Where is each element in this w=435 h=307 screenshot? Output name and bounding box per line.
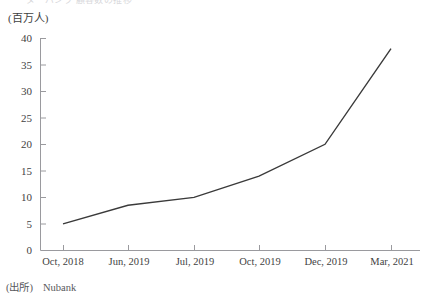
- source-label: (出所): [6, 282, 33, 293]
- data-series-line: [63, 49, 391, 224]
- y-axis-label-10: 10: [6, 192, 32, 203]
- y-axis-label-0: 0: [6, 245, 32, 256]
- y-axis-label-20: 20: [6, 139, 32, 150]
- x-axis-label-mar-2021: Mar, 2021: [352, 256, 432, 268]
- source-note: (出所)Nubank: [6, 282, 76, 294]
- y-axis-label-5: 5: [6, 219, 32, 230]
- plot-area: 40 35 30 25 20 15 10 5 0 Oct, 2018 Jun, …: [0, 0, 435, 307]
- chart-figure: ヌーバンク 顧客数の推移 (百万人): [0, 0, 435, 307]
- y-axis-label-30: 30: [6, 86, 32, 97]
- y-axis-label-25: 25: [6, 113, 32, 124]
- y-axis-label-40: 40: [6, 33, 32, 44]
- y-axis-label-15: 15: [6, 166, 32, 177]
- y-axis-label-35: 35: [6, 60, 32, 71]
- source-value: Nubank: [43, 282, 76, 293]
